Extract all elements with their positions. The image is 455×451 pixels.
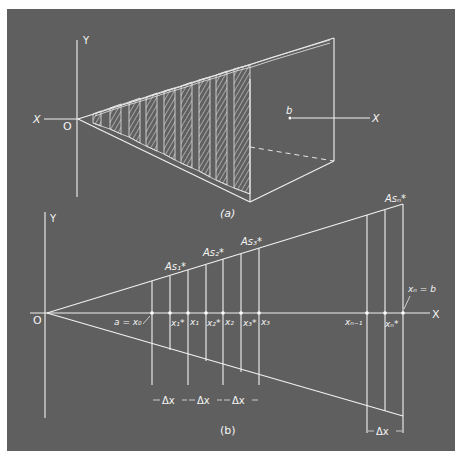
label-x2: x₂: [224, 317, 234, 327]
panel-b-bottom-edge: [47, 313, 403, 416]
label-xn-eq-b: xₙ = b: [407, 284, 436, 294]
label-xn-1: xₙ₋₁: [344, 317, 363, 327]
delta-x-label-1: Δx: [162, 395, 175, 406]
label-x1-star: x₁*: [170, 318, 185, 328]
label-x3-star: x₃*: [242, 318, 257, 328]
panel-a-origin-label: O: [63, 120, 72, 133]
label-a-eq-x0: a = x₀: [114, 317, 142, 327]
diagram-svg: Y X O: [7, 9, 455, 451]
panel-a: Y X O: [32, 35, 380, 220]
panel-a-hidden-edge: [250, 147, 334, 161]
panel-b: Y X O: [30, 193, 440, 437]
label-asn: Asₙ*: [384, 193, 406, 204]
panel-b-y-label: Y: [49, 213, 57, 224]
label-xn-star: xₙ*: [384, 319, 399, 329]
panel-b-caption: (b): [220, 424, 236, 437]
delta-x-label-3: Δx: [232, 395, 245, 406]
panel-b-x-label: X: [432, 308, 440, 321]
panel-b-origin-label: O: [33, 314, 42, 327]
panel-a-y-label: Y: [82, 35, 90, 46]
panel-a-caption: (a): [220, 207, 235, 220]
delta-x-label-n: Δx: [376, 426, 389, 437]
panel-a-end-base: [250, 161, 334, 202]
label-as1: As₁*: [164, 261, 186, 272]
panel-a-slabs: [93, 40, 330, 194]
panel-a-b-label: b: [286, 105, 292, 116]
label-x1: x₁: [189, 317, 199, 327]
label-x3: x₃: [260, 317, 270, 327]
panel-a-x-label-left: X: [32, 113, 41, 126]
panel-a-b-point: [289, 117, 292, 120]
label-x2-star: x₂*: [206, 318, 221, 328]
label-as2: As₂*: [202, 247, 224, 258]
delta-x-label-2: Δx: [197, 395, 210, 406]
panel-b-top-edge: [47, 204, 403, 313]
panel-a-x-label-right: X: [371, 112, 380, 125]
figure-panel: Y X O: [7, 9, 455, 451]
delta-x-dimensions: Δx Δx Δx Δx: [153, 394, 402, 437]
label-as3: As₃*: [240, 236, 262, 247]
